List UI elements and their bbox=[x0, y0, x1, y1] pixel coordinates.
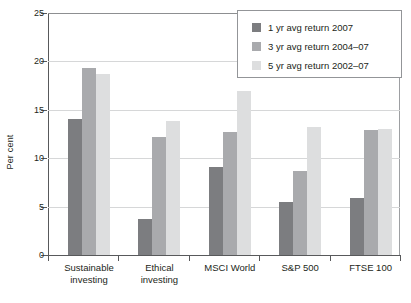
y-axis-tick-label: 10 bbox=[26, 154, 44, 163]
x-axis-tick bbox=[118, 255, 119, 261]
y-axis-tick-label: 0 bbox=[26, 251, 44, 260]
bar bbox=[82, 68, 96, 255]
bar-chart: Per cent 0510152025 Sustainable investin… bbox=[0, 0, 411, 303]
bar bbox=[350, 198, 364, 255]
x-axis-tick bbox=[48, 255, 49, 261]
y-axis-tick-label: 5 bbox=[26, 203, 44, 212]
x-axis-category-label: FTSE 100 bbox=[326, 262, 411, 274]
y-axis-tick-label: 20 bbox=[26, 57, 44, 66]
legend-item-label: 5 yr avg return 2002–07 bbox=[268, 61, 369, 71]
legend-item-label: 3 yr avg return 2004–07 bbox=[268, 42, 369, 52]
y-axis-tick-label: 25 bbox=[26, 9, 44, 18]
bar bbox=[138, 219, 152, 255]
bar bbox=[152, 137, 166, 255]
bar bbox=[307, 127, 321, 255]
bar bbox=[293, 171, 307, 255]
x-axis-line bbox=[41, 255, 401, 256]
bar bbox=[364, 130, 378, 255]
bar bbox=[166, 121, 180, 255]
bar bbox=[223, 132, 237, 255]
bar bbox=[279, 202, 293, 255]
legend-item[interactable]: 5 yr avg return 2002–07 bbox=[252, 56, 401, 75]
x-axis-tick bbox=[330, 255, 331, 261]
x-axis-tick bbox=[259, 255, 260, 261]
bar bbox=[209, 167, 223, 255]
legend: 1 yr avg return 2007 3 yr avg return 200… bbox=[237, 10, 402, 78]
x-axis-tick bbox=[400, 255, 401, 261]
bar bbox=[378, 129, 392, 255]
y-axis-tick-label: 15 bbox=[26, 106, 44, 115]
bar bbox=[96, 74, 110, 255]
legend-swatch-icon bbox=[252, 61, 261, 70]
x-axis-tick bbox=[189, 255, 190, 261]
legend-item[interactable]: 3 yr avg return 2004–07 bbox=[252, 37, 401, 56]
legend-item-label: 1 yr avg return 2007 bbox=[268, 23, 353, 33]
bar bbox=[68, 119, 82, 255]
legend-item[interactable]: 1 yr avg return 2007 bbox=[252, 18, 401, 37]
y-axis-title: Per cent bbox=[2, 0, 18, 303]
legend-swatch-icon bbox=[252, 42, 261, 51]
y-axis-title-text: Per cent bbox=[5, 134, 15, 169]
bar bbox=[237, 91, 251, 255]
legend-swatch-icon bbox=[252, 23, 261, 32]
